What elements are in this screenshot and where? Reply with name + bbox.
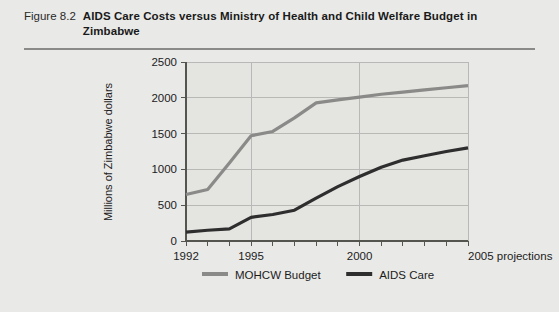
x-tick-label: 1995 (238, 250, 264, 262)
x-tick-label: 2000 (347, 250, 373, 262)
y-tick-label: 500 (158, 199, 177, 211)
legend-label-0: MOHCW Budget (235, 269, 321, 281)
figure-title: AIDS Care Costs versus Ministry of Healt… (83, 9, 536, 39)
x-axis-ticks (186, 241, 468, 246)
y-tick-label: 1000 (151, 163, 177, 175)
chart-legend: MOHCW BudgetAIDS Care (202, 269, 434, 281)
y-axis-title: Millions of Zimbabwe dollars (102, 82, 114, 221)
caption-divider (24, 48, 535, 50)
y-tick-label: 2000 (151, 92, 177, 104)
figure-page: Figure 8.2 AIDS Care Costs versus Minist… (0, 0, 559, 312)
y-axis-ticks: 05001000150020002500 (151, 56, 186, 247)
plot-area: 05001000150020002500 1992199520002005 pr… (0, 52, 559, 310)
x-tick-label: 1992 (173, 250, 199, 262)
figure-number: Figure 8.2 (24, 9, 76, 24)
legend-label-1: AIDS Care (379, 269, 434, 281)
y-tick-label: 0 (171, 235, 177, 247)
y-tick-label: 2500 (151, 56, 177, 68)
x-tick-label: 2005 projections (468, 250, 553, 262)
figure-caption: Figure 8.2 AIDS Care Costs versus Minist… (24, 9, 536, 39)
y-tick-label: 1500 (151, 128, 177, 140)
chart-figure: 05001000150020002500 1992199520002005 pr… (0, 52, 559, 310)
x-axis-tick-labels: 1992199520002005 projections (173, 250, 552, 262)
line-chart: 05001000150020002500 1992199520002005 pr… (0, 52, 559, 310)
